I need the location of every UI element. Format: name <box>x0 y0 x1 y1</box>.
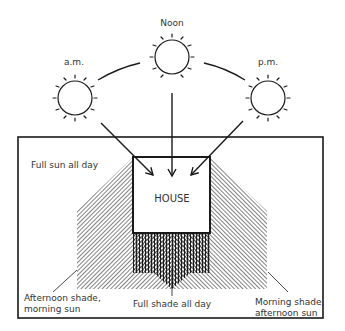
label-morning-shade-line2: afternoon sun <box>255 308 324 319</box>
label-morning-shade-line1: Morning shade, <box>255 297 324 308</box>
label-afternoon-shade-line2: morning sun <box>24 304 101 315</box>
label-pm: p.m. <box>258 57 278 68</box>
house-label: HOUSE <box>154 193 189 204</box>
label-full-sun: Full sun all day <box>31 160 98 171</box>
leader-afternoon-shade <box>53 270 77 292</box>
label-am: a.m. <box>64 57 84 68</box>
label-afternoon-shade: Afternoon shade, morning sun <box>24 293 101 315</box>
label-morning-shade: Morning shade, afternoon sun <box>255 297 324 319</box>
leader-morning-shade <box>268 272 288 292</box>
sun-path-arc-right <box>204 63 245 80</box>
label-noon: Noon <box>160 18 183 29</box>
label-full-shade: Full shade all day <box>133 299 211 310</box>
sun-noon-icon <box>150 34 194 77</box>
sun-path-arc-left <box>98 63 140 80</box>
sun-am-icon <box>53 75 97 121</box>
label-afternoon-shade-line1: Afternoon shade, <box>24 293 101 304</box>
sun-pm-icon <box>246 75 290 121</box>
